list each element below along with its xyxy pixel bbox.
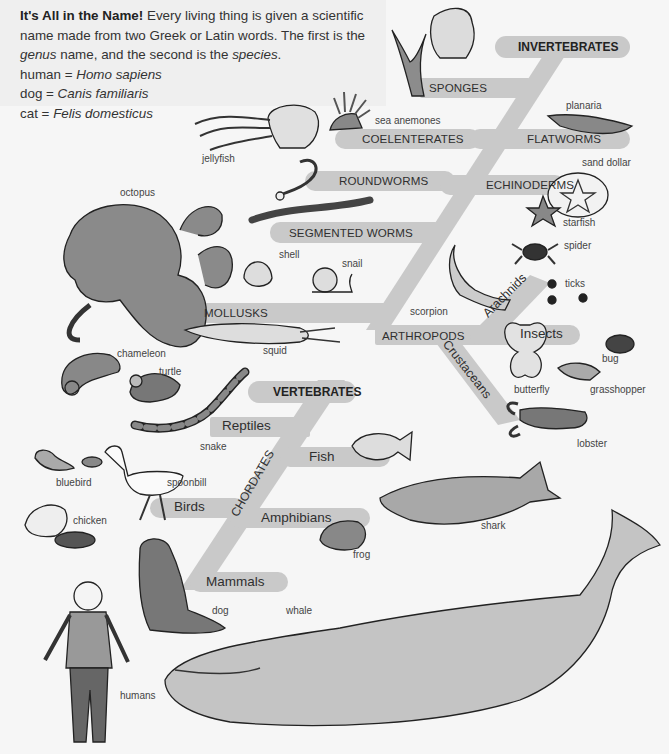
snail-icon	[313, 268, 337, 292]
vertebrates-label: VERTEBRATES	[273, 385, 361, 399]
scorpion-label: scorpion	[410, 306, 448, 317]
sea-anemone-icon	[330, 114, 362, 130]
tick-icon	[579, 294, 587, 302]
segmented-worms-label: SEGMENTED WORMS	[289, 226, 413, 239]
sand-dollar-label: sand dollar	[582, 157, 631, 168]
lobster-label: lobster	[577, 438, 607, 449]
chicken-label: chicken	[73, 515, 107, 526]
humans-label: humans	[120, 690, 156, 701]
invertebrates-label: INVERTEBRATES	[518, 40, 618, 54]
insects-label: Insects	[520, 326, 563, 341]
human-pants-icon	[70, 668, 108, 742]
chameleon-icon	[62, 354, 120, 394]
echinoderms-label: ECHINODERMS	[486, 178, 574, 191]
snake-label: snake	[200, 441, 227, 452]
mollusks-label: MOLLUSKS	[204, 306, 268, 319]
tree-diagram	[0, 0, 669, 754]
chicken-icon	[25, 505, 67, 537]
spoonbill-label: spoonbill	[167, 477, 206, 488]
spider-icon	[523, 244, 547, 260]
bluebird-icon	[35, 450, 74, 470]
spider-label: spider	[564, 240, 591, 251]
lobster-icon	[520, 408, 587, 429]
coelenterates-label: COELENTERATES	[362, 132, 464, 145]
sponge-vase-icon	[431, 8, 475, 58]
bluebird-label: bluebird	[56, 477, 92, 488]
shark-label: shark	[481, 520, 505, 531]
sponges-label: SPONGES	[429, 81, 487, 94]
sponge-tube-icon	[392, 30, 426, 96]
starfish-label: starfish	[563, 217, 595, 228]
fish-icon	[352, 432, 412, 460]
fish-label: Fish	[309, 449, 335, 464]
reptiles-label: Reptiles	[222, 418, 271, 433]
chameleon-label: chameleon	[117, 348, 166, 359]
frog-label: frog	[353, 549, 370, 560]
shell-icon	[244, 262, 272, 286]
human-head-icon	[74, 582, 102, 610]
bug-label: bug	[602, 353, 619, 364]
whale-icon	[165, 510, 660, 726]
squid-icon	[185, 324, 308, 344]
jellyfish-label: jellyfish	[202, 153, 235, 164]
bug-icon	[606, 335, 634, 353]
birds-label: Birds	[174, 499, 205, 514]
sea-anemones-label: sea anemones	[375, 115, 441, 126]
roundworm-icon	[278, 160, 316, 196]
tick-icon	[548, 280, 556, 288]
human-shirt-icon	[66, 612, 112, 668]
mammals-label: Mammals	[206, 574, 265, 589]
dog-label: dog	[212, 605, 229, 616]
amphibians-label: Amphibians	[261, 510, 332, 525]
tick-icon	[548, 296, 556, 304]
whale-label: whale	[286, 605, 312, 616]
flatworms-label: FLATWORMS	[527, 132, 601, 145]
shark-icon	[380, 462, 560, 524]
segmented-worm-icon	[252, 200, 370, 220]
butterfly-label: butterfly	[514, 384, 550, 395]
octopus-label: octopus	[120, 187, 155, 198]
turtle-label: turtle	[159, 366, 181, 377]
grasshopper-icon	[558, 363, 600, 380]
snail-label: snail	[342, 258, 363, 269]
planaria-label: planaria	[566, 100, 602, 111]
roundworms-label: ROUNDWORMS	[339, 174, 428, 187]
jellyfish-icon	[268, 105, 318, 148]
grasshopper-label: grasshopper	[590, 384, 646, 395]
squid-label: squid	[263, 345, 287, 356]
shell-label: shell	[279, 249, 300, 260]
nest-icon	[55, 532, 95, 548]
ticks-label: ticks	[565, 278, 585, 289]
